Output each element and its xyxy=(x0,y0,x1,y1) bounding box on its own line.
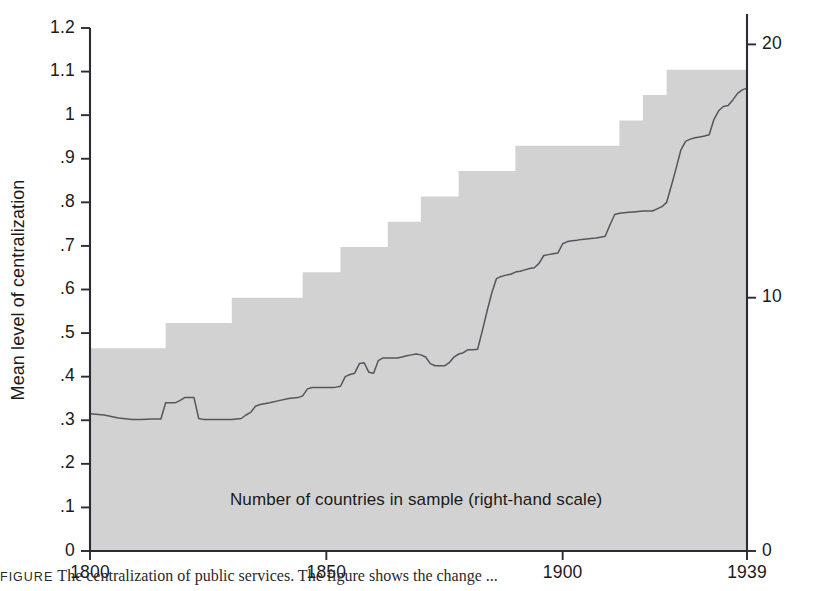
centralization-chart: 0.1.2.3.4.5.6.7.8.911.11.201020180018501… xyxy=(0,0,827,591)
y-tick-label: .2 xyxy=(60,452,75,472)
figure-caption-label: FIGURE xyxy=(0,570,53,584)
y-axis-title: Mean level of centralization xyxy=(8,180,28,401)
y2-tick-label: 10 xyxy=(762,286,782,306)
y-tick-label: .6 xyxy=(60,278,75,298)
y-tick-label: 0 xyxy=(65,540,75,560)
countries-step-area xyxy=(90,70,747,551)
figure-caption-text: The centralization of public services. T… xyxy=(57,567,497,584)
y-tick-label: .8 xyxy=(60,191,75,211)
figure-caption: FIGURE The centralization of public serv… xyxy=(0,566,827,591)
chart-figure: 0.1.2.3.4.5.6.7.8.911.11.201020180018501… xyxy=(0,0,827,591)
y-tick-label: 1.1 xyxy=(50,60,75,80)
area-series-label: Number of countries in sample (right-han… xyxy=(230,490,602,509)
y2-tick-label: 0 xyxy=(762,540,772,560)
y-tick-label: .7 xyxy=(60,235,75,255)
y-tick-label: .4 xyxy=(60,365,75,385)
y-tick-label: 1.2 xyxy=(50,17,75,37)
y-tick-label: .3 xyxy=(60,409,75,429)
y2-tick-label: 20 xyxy=(762,33,782,53)
y-tick-label: .9 xyxy=(60,147,75,167)
y-tick-label: .5 xyxy=(60,322,75,342)
chart-annotations: Number of countries in sample (right-han… xyxy=(230,490,602,509)
y-tick-label: .1 xyxy=(60,496,75,516)
countries-area-series xyxy=(90,70,747,551)
y-tick-label: 1 xyxy=(65,104,75,124)
